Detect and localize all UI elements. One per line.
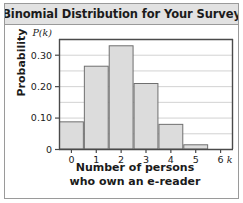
bar-k2 [109,46,133,149]
bar-k0 [60,122,84,149]
x-tick-label: 5 [193,154,199,165]
x-tick-label: 2 [118,154,124,165]
y-axis-variable-label: P(k) [31,27,52,38]
x-tick-label: 0 [68,154,74,165]
figure-frame: Binomial Distribution for Your Survey Pr… [4,3,239,199]
bar-k3 [134,84,158,150]
x-tick-label: 3 [143,154,149,165]
x-tick-label: 1 [93,154,99,165]
plot-area: 00.100.200.30P(k)0123456k [5,4,239,199]
x-tick-label: 6 [218,154,224,165]
bar-chart-svg: 00.100.200.30P(k)0123456k [5,4,239,199]
bar-k5 [184,145,208,149]
y-tick-label: 0 [46,144,52,155]
bar-k4 [159,124,183,149]
x-tick-label: 4 [168,154,174,165]
y-tick-label: 0.30 [31,50,52,61]
y-tick-label: 0.10 [31,112,52,123]
bar-k1 [84,66,108,149]
y-tick-label: 0.20 [31,81,52,92]
x-axis-variable-label: k [227,154,233,165]
